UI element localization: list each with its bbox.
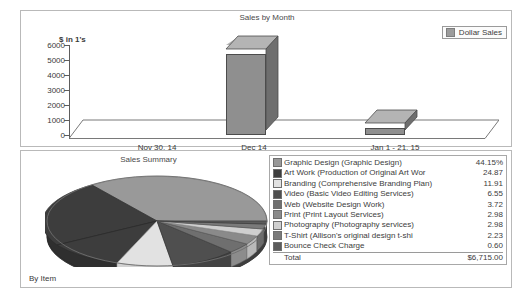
legend-label-t-shirt: T-Shirt (Allison's original design t-shi xyxy=(284,231,461,241)
pie-chart-footer-label: By Item xyxy=(29,274,56,283)
legend-value-graphic-design: 44.15% xyxy=(461,158,503,168)
y-tick-2000: 2000 xyxy=(25,102,65,110)
legend-swatch-web xyxy=(273,200,284,210)
y-tick-5000: 5000 xyxy=(25,57,65,65)
breakdown-table-body: Graphic Design (Graphic Design) 44.15% A… xyxy=(273,158,503,263)
legend-swatch-print xyxy=(273,210,284,220)
legend-label-art-work: Art Work (Production of Original Art Wor xyxy=(284,168,461,178)
bar-jan-side-face xyxy=(405,110,418,134)
y-axis-tick-labels: 6000 5000 4000 3000 2000 1000 0 xyxy=(23,11,65,148)
legend-label-branding: Branding (Comprehensive Branding Plan) xyxy=(284,179,461,189)
legend-swatch-art-work xyxy=(273,168,284,178)
legend-value-t-shirt: 2.23 xyxy=(461,231,503,241)
pie-chart-panel: Sales Summary By Item xyxy=(20,150,512,288)
chart-floor xyxy=(69,117,499,139)
table-row[interactable]: Photography (Photography services) 2.98 xyxy=(273,220,503,230)
y-tick-0: 0 xyxy=(25,132,65,140)
total-swatch-spacer xyxy=(273,252,284,263)
table-row[interactable]: Print (Print Layout Services) 2.98 xyxy=(273,210,503,220)
legend-swatch-bounce-check-charge xyxy=(273,241,284,252)
legend-value-bounce-check-charge: 0.60 xyxy=(461,241,503,252)
legend-label-web: Web (Website Design Work) xyxy=(284,200,461,210)
table-row[interactable]: T-Shirt (Allison's original design t-shi… xyxy=(273,231,503,241)
y-tick-3000: 3000 xyxy=(25,87,65,95)
legend-swatch-graphic-design xyxy=(273,158,284,168)
table-row[interactable]: Video (Basic Video Editing Services) 6.5… xyxy=(273,189,503,199)
pie-chart-graphic[interactable] xyxy=(45,175,269,267)
pie-chart-title: Sales Summary xyxy=(21,155,276,164)
legend-label-bounce-check-charge: Bounce Check Charge xyxy=(284,241,461,252)
legend-value-print: 2.98 xyxy=(461,210,503,220)
y-tick-4000: 4000 xyxy=(25,72,65,80)
bar-chart-legend-label: Dollar Sales xyxy=(459,28,502,37)
legend-label-photography: Photography (Photography services) xyxy=(284,220,461,230)
legend-value-web: 3.72 xyxy=(461,200,503,210)
y-tick-6000: 6000 xyxy=(25,42,65,50)
tickmark-2000 xyxy=(64,105,69,106)
legend-swatch-t-shirt xyxy=(273,231,284,241)
legend-label-video: Video (Basic Video Editing Services) xyxy=(284,189,461,199)
legend-swatch-photography xyxy=(273,220,284,230)
table-row[interactable]: Art Work (Production of Original Art Wor… xyxy=(273,168,503,178)
table-row[interactable]: Bounce Check Charge 0.60 xyxy=(273,241,503,252)
total-label: Total xyxy=(284,252,461,263)
pie-legend-table[interactable]: Graphic Design (Graphic Design) 44.15% A… xyxy=(269,155,507,265)
pie-top-face xyxy=(45,176,267,266)
table-row-total: Total $6,715.00 xyxy=(273,252,503,263)
total-value: $6,715.00 xyxy=(461,252,503,263)
sales-report: Sales by Month Dollar Sales $ in 1's 600… xyxy=(0,0,522,298)
legend-label-print: Print (Print Layout Services) xyxy=(284,210,461,220)
bar-dec-side-face xyxy=(266,36,279,126)
bar-jan-1-21-15[interactable] xyxy=(365,119,405,135)
legend-value-branding: 11.91 xyxy=(461,179,503,189)
tickmark-3000 xyxy=(64,90,69,91)
bar-chart-title: Sales by Month xyxy=(21,13,513,22)
legend-value-video: 6.55 xyxy=(461,189,503,199)
table-row[interactable]: Graphic Design (Graphic Design) 44.15% xyxy=(273,158,503,168)
dollar-sales-swatch xyxy=(446,28,455,37)
legend-value-photography: 2.98 xyxy=(461,220,503,230)
tickmark-4000 xyxy=(64,75,69,76)
tickmark-6000 xyxy=(64,45,69,46)
legend-swatch-video xyxy=(273,189,284,199)
y-tick-1000: 1000 xyxy=(25,117,65,125)
table-row[interactable]: Branding (Comprehensive Branding Plan) 1… xyxy=(273,179,503,189)
bar-chart-legend[interactable]: Dollar Sales xyxy=(442,26,507,39)
legend-value-art-work: 24.87 xyxy=(461,168,503,178)
legend-swatch-branding xyxy=(273,179,284,189)
legend-label-graphic-design: Graphic Design (Graphic Design) xyxy=(284,158,461,168)
bar-dec-14[interactable] xyxy=(226,45,266,135)
bar-chart-plot-area: Nov 30, 14 Dec 14 xyxy=(69,45,499,139)
breakdown-table: Graphic Design (Graphic Design) 44.15% A… xyxy=(273,158,503,263)
table-row[interactable]: Web (Website Design Work) 3.72 xyxy=(273,200,503,210)
tickmark-5000 xyxy=(64,60,69,61)
bar-chart-panel: Sales by Month Dollar Sales $ in 1's 600… xyxy=(20,10,512,147)
